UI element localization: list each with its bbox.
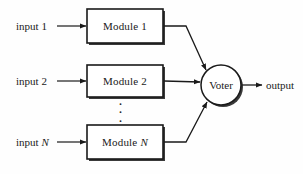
module-label-2: Module 2 bbox=[87, 76, 163, 87]
input-label-1-prefix: input bbox=[16, 20, 39, 32]
module-label-1-suffix: 1 bbox=[141, 20, 147, 32]
input-label-n: input N bbox=[16, 137, 49, 148]
input-label-2-suffix: 2 bbox=[41, 75, 47, 87]
module-label-1: Module 1 bbox=[87, 21, 163, 32]
module-label-2-suffix: 2 bbox=[141, 75, 147, 87]
input-label-n-suffix: N bbox=[41, 136, 48, 148]
module-label-n: Module N bbox=[87, 137, 163, 148]
input-label-1: input 1 bbox=[16, 21, 47, 32]
ellipsis-dot-3: · bbox=[118, 117, 123, 125]
link-modulen-to-voter bbox=[164, 102, 207, 142]
input-label-n-prefix: input bbox=[16, 136, 39, 148]
vertical-ellipsis-icon: · · · bbox=[118, 100, 123, 125]
module-label-1-prefix: Module bbox=[103, 20, 138, 32]
input-label-1-suffix: 1 bbox=[41, 20, 47, 32]
link-module1-to-voter bbox=[164, 26, 206, 70]
link-module2-to-voter bbox=[164, 81, 200, 82]
module-label-n-prefix: Module bbox=[102, 136, 137, 148]
output-label: output bbox=[266, 80, 294, 91]
block-diagram-canvas: input 1 input 2 input N Module 1 Module … bbox=[0, 0, 303, 174]
module-label-n-suffix: N bbox=[140, 136, 148, 148]
input-label-2: input 2 bbox=[16, 76, 47, 87]
input-label-2-prefix: input bbox=[16, 75, 39, 87]
module-label-2-prefix: Module bbox=[103, 75, 138, 87]
voter-label: Voter bbox=[201, 80, 241, 91]
